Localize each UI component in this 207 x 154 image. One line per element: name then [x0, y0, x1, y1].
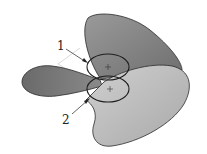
leader-2: [72, 98, 90, 114]
label-1: 1: [57, 39, 65, 53]
label-2: 2: [62, 113, 70, 127]
left-blade: [22, 66, 102, 97]
propeller-diagram: 1 2: [0, 0, 207, 154]
